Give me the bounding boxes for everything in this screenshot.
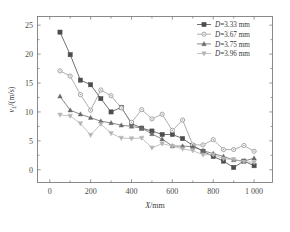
data-point-marker-dot [172, 130, 173, 131]
series-4 [58, 113, 257, 165]
data-point-marker-dot [253, 151, 254, 152]
data-point-marker [180, 136, 184, 140]
data-point-marker-dot [151, 118, 152, 119]
chart-legend: D=3.33 mmD=3.67 mmD=3.75 mmD=3.96 mm [197, 21, 250, 58]
x-tick-label: 1 000 [245, 187, 263, 196]
data-point-marker [68, 114, 73, 118]
data-point-marker-dot [100, 89, 101, 90]
data-point-marker-dot [202, 144, 203, 145]
x-tick-label: 0 [48, 187, 52, 196]
y-tick-label: 15 [25, 79, 33, 88]
data-point-marker-dot [69, 75, 70, 76]
legend-label-value: =3.96 mm [220, 50, 250, 58]
data-point-marker [68, 53, 72, 57]
legend-marker-dot [203, 34, 204, 35]
x-tick-label: 800 [207, 187, 219, 196]
y-tick-label: 10 [25, 108, 33, 117]
data-point-marker-dot [59, 70, 60, 71]
legend-label-value: =3.33 mm [220, 21, 250, 29]
legend-label-value: =3.75 mm [220, 41, 250, 49]
x-tick-label: 600 [166, 187, 178, 196]
data-point-marker-dot [213, 139, 214, 140]
y-tick-label: 5 [29, 137, 33, 146]
data-point-marker [160, 137, 165, 141]
data-point-marker-dot [131, 122, 132, 123]
x-axis-title: X/mm [144, 201, 165, 210]
data-point-marker [58, 30, 62, 34]
series-3 [58, 94, 257, 163]
data-point-marker-dot [141, 109, 142, 110]
data-point-marker [252, 156, 257, 160]
chart-figure: 02004006008001 000 0510152025 D=3.33 mmD… [0, 0, 290, 232]
data-point-marker-dot [161, 114, 162, 115]
data-point-marker-dot [243, 145, 244, 146]
data-point-marker [232, 165, 236, 169]
legend-label: D=3.67 mm [214, 31, 250, 39]
data-point-marker [160, 132, 164, 136]
data-point-marker [99, 97, 103, 101]
series-2 [58, 69, 256, 154]
data-point-marker-dot [121, 107, 122, 108]
legend-item-4: D=3.96 mm [197, 50, 250, 58]
series-line [60, 115, 254, 162]
legend-marker [202, 22, 206, 26]
data-point-marker [88, 133, 93, 137]
x-tick-label: 200 [85, 187, 97, 196]
data-point-marker [150, 146, 155, 150]
legend-label: D=3.33 mm [214, 21, 250, 29]
legend-item-1: D=3.33 mm [197, 21, 250, 29]
data-point-marker-dot [182, 119, 183, 120]
legend-item-3: D=3.75 mm [197, 41, 250, 49]
x-tick-label: 400 [126, 187, 138, 196]
legend-label: D=3.75 mm [214, 41, 250, 49]
y-axis-title-units: /(m/s) [7, 86, 16, 105]
legend-item-2: D=3.67 mm [197, 31, 250, 39]
data-point-marker [58, 94, 63, 98]
data-point-marker [170, 132, 174, 136]
legend-label-value: =3.67 mm [220, 31, 250, 39]
y-tick-label: 20 [25, 50, 33, 59]
data-point-marker-dot [223, 149, 224, 150]
data-point-marker [89, 83, 93, 87]
data-point-marker-dot [90, 110, 91, 111]
data-point-marker-dot [233, 149, 234, 150]
y-axis-title: vL/(m/s) [7, 86, 17, 112]
data-point-marker-dot [80, 94, 81, 95]
legend-label: D=3.96 mm [214, 50, 250, 58]
x-axis-title-units: /mm [150, 201, 165, 210]
data-point-marker [78, 78, 82, 82]
data-point-marker [129, 137, 134, 141]
data-point-marker-dot [110, 95, 111, 96]
y-tick-label: 0 [29, 166, 33, 175]
line-chart: 02004006008001 000 0510152025 D=3.33 mmD… [0, 0, 290, 232]
y-tick-label: 25 [25, 21, 33, 30]
data-point-marker [109, 110, 113, 114]
